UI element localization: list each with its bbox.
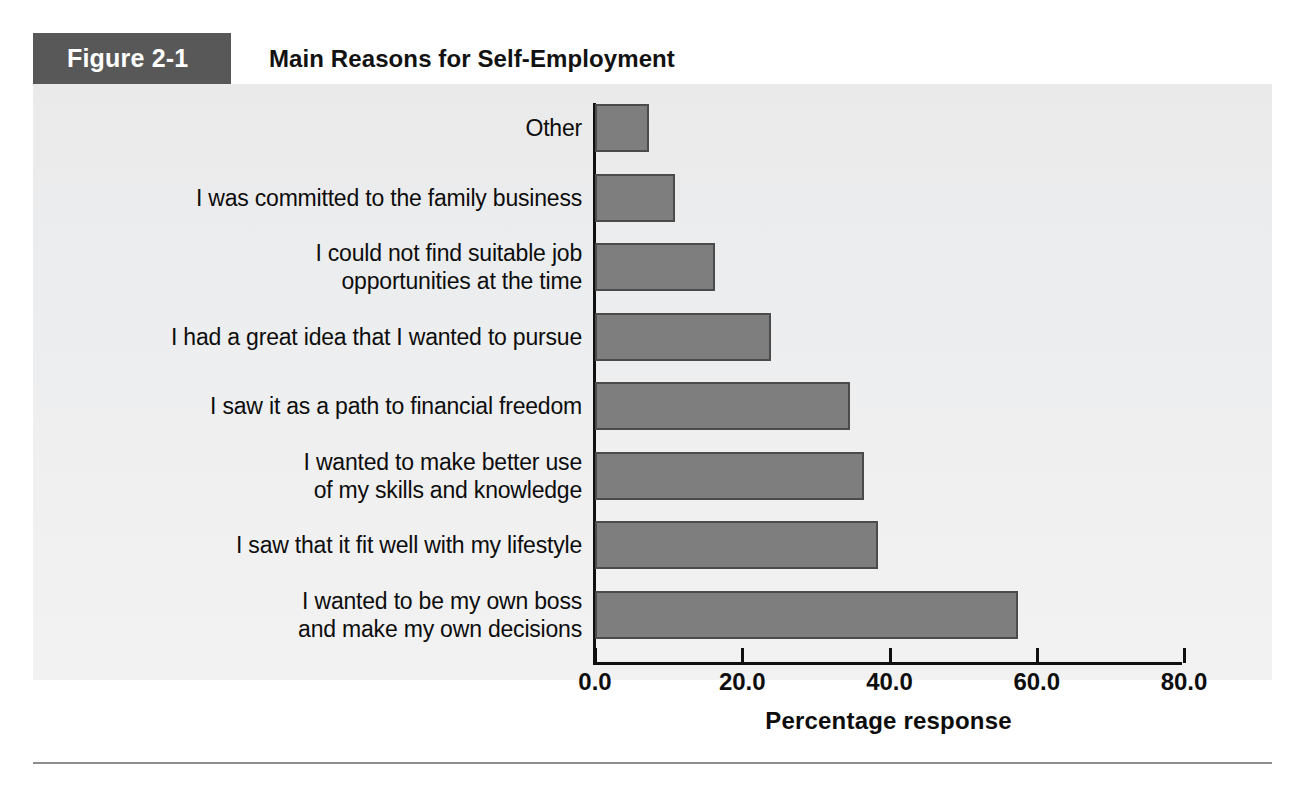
- bar-category-label: I had a great idea that I wanted to purs…: [171, 323, 582, 351]
- bar: [595, 591, 1018, 639]
- x-axis-line: [593, 662, 1182, 665]
- bar-row: I wanted to make better use of my skills…: [33, 452, 1272, 500]
- figure-number-tab: Figure 2-1: [33, 33, 231, 84]
- bar: [595, 313, 771, 361]
- x-axis-tick: [594, 648, 597, 663]
- bar: [595, 104, 649, 152]
- bar-row: I saw it as a path to financial freedom: [33, 382, 1272, 430]
- x-axis-tick-label: 0.0: [578, 668, 611, 696]
- x-axis-tick: [1183, 648, 1186, 663]
- bar-category-label: I saw that it fit well with my lifestyle: [236, 531, 582, 559]
- bar: [595, 521, 878, 569]
- x-axis-tick-label: 20.0: [719, 668, 766, 696]
- bar-category-label: I could not find suitable job opportunit…: [315, 239, 582, 295]
- x-axis-tick-label: 80.0: [1161, 668, 1208, 696]
- bar-row: I wanted to be my own boss and make my o…: [33, 591, 1272, 639]
- bar: [595, 382, 850, 430]
- x-axis-tick: [889, 648, 892, 663]
- bar: [595, 452, 864, 500]
- bar-row: Other: [33, 104, 1272, 152]
- bar-row: I could not find suitable job opportunit…: [33, 243, 1272, 291]
- x-axis-tick: [741, 648, 744, 663]
- x-axis-tick-label: 40.0: [866, 668, 913, 696]
- bar-category-label: I wanted to make better use of my skills…: [304, 448, 582, 504]
- bar-category-label: I was committed to the family business: [196, 184, 582, 212]
- figure-header: Figure 2-1 Main Reasons for Self-Employm…: [33, 33, 1272, 84]
- bar-category-label: Other: [525, 114, 582, 142]
- bar-category-label: I wanted to be my own boss and make my o…: [298, 587, 582, 643]
- x-axis-title: Percentage response: [594, 707, 1183, 735]
- figure-number-label: Figure 2-1: [67, 44, 188, 73]
- bottom-divider: [33, 762, 1272, 764]
- bar-row: I was committed to the family business: [33, 174, 1272, 222]
- bar-row: I saw that it fit well with my lifestyle: [33, 521, 1272, 569]
- x-axis-tick-label: 60.0: [1013, 668, 1060, 696]
- x-axis-tick: [1036, 648, 1039, 663]
- figure-title: Main Reasons for Self-Employment: [269, 45, 675, 73]
- bar-category-label: I saw it as a path to financial freedom: [210, 392, 582, 420]
- bar: [595, 243, 715, 291]
- bar-row: I had a great idea that I wanted to purs…: [33, 313, 1272, 361]
- figure-container: Figure 2-1 Main Reasons for Self-Employm…: [0, 0, 1305, 789]
- bar: [595, 174, 675, 222]
- plot-area: OtherI was committed to the family busin…: [33, 84, 1272, 680]
